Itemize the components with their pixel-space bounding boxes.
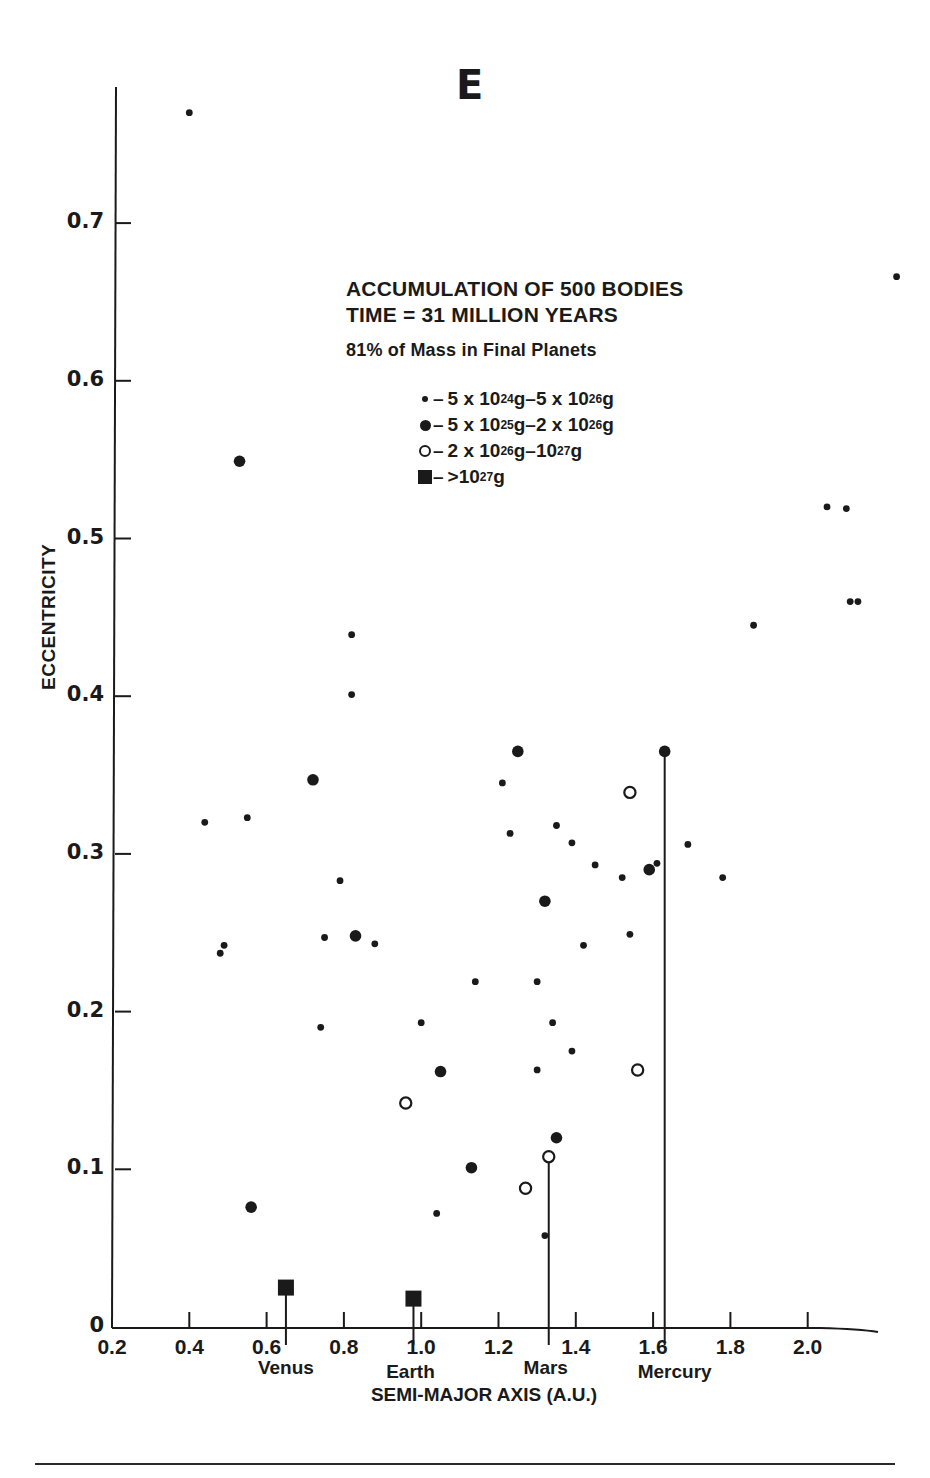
chart-title-line-1: ACCUMULATION OF 500 BODIES (346, 277, 683, 301)
data-point-open (520, 1183, 531, 1194)
data-point-medium (350, 930, 362, 942)
data-point-small (843, 505, 850, 512)
y-tick-label: 0.6 (54, 367, 104, 391)
small-dot-icon (422, 396, 428, 402)
data-point-small (317, 1024, 324, 1031)
planet-label-mercury: Mercury (638, 1361, 712, 1383)
x-axis-line (112, 1328, 878, 1332)
data-point-small (418, 1019, 425, 1026)
legend: – 5 x 1024g–5 x 1026g – 5 x 1025g–2 x 10… (418, 386, 614, 490)
data-point-small (592, 862, 599, 869)
scatter-figure: E ACCUMULATION OF 500 BODIES TIME = 31 M… (0, 0, 930, 1478)
plot-area (0, 0, 930, 1478)
data-point-small (499, 780, 506, 787)
data-point-medium (307, 774, 319, 786)
data-point-medium (643, 864, 655, 876)
data-point-medium (539, 895, 551, 907)
y-tick-label: 0.7 (54, 209, 104, 233)
legend-item-open: – 2 x 1026g–1027g (418, 438, 614, 464)
x-tick-label: 0.4 (175, 1335, 204, 1359)
data-point-small (433, 1210, 440, 1217)
data-point-square (278, 1280, 294, 1296)
data-point-small (553, 822, 560, 829)
filled-square-icon (418, 470, 432, 484)
data-point-medium (466, 1162, 478, 1174)
data-point-small (549, 1019, 556, 1026)
legend-item-medium: – 5 x 1025g–2 x 1026g (418, 412, 614, 438)
data-point-small (472, 978, 479, 985)
data-point-small (348, 691, 355, 698)
data-point-small (201, 819, 208, 826)
data-point-small (507, 830, 514, 837)
data-point-small (337, 877, 344, 884)
data-point-small (534, 1067, 541, 1074)
data-point-small (348, 631, 355, 638)
x-tick-label: 2.0 (793, 1335, 822, 1359)
data-point-square (405, 1291, 421, 1307)
data-point-small (654, 860, 661, 867)
data-point-medium (234, 455, 246, 467)
chart-title-line-2: TIME = 31 MILLION YEARS (346, 303, 618, 327)
y-tick-label: 0 (54, 1313, 104, 1337)
data-point-small (627, 931, 634, 938)
data-point-medium (551, 1132, 563, 1144)
y-axis-label: ECCENTRICITY (38, 544, 60, 690)
data-point-small (824, 504, 831, 511)
data-point-small (321, 934, 328, 941)
y-tick-label: 0.5 (54, 525, 104, 549)
x-tick-label: 1.6 (638, 1335, 667, 1359)
data-point-medium (435, 1066, 447, 1078)
data-point-open (624, 787, 635, 798)
y-axis-line (112, 87, 116, 1328)
x-tick-label: 1.0 (407, 1335, 436, 1359)
data-point-small (750, 622, 757, 629)
data-point-small (847, 598, 854, 605)
y-tick-label: 0.4 (54, 682, 104, 706)
x-tick-label: 0.2 (97, 1335, 126, 1359)
x-tick-label: 1.4 (561, 1335, 590, 1359)
data-point-small (580, 942, 587, 949)
data-point-small (534, 978, 541, 985)
medium-dot-icon (420, 420, 431, 431)
data-point-small (855, 598, 862, 605)
data-point-small (371, 940, 378, 947)
data-point-medium (245, 1201, 257, 1213)
data-point-medium (659, 746, 671, 758)
panel-letter: E (456, 62, 483, 108)
data-point-small (569, 839, 576, 846)
bottom-rule (35, 1463, 895, 1465)
data-point-small (684, 841, 691, 848)
data-point-small (569, 1048, 576, 1055)
data-point-small (186, 109, 193, 116)
legend-item-square: – >1027g (418, 464, 614, 490)
data-point-open (632, 1064, 643, 1075)
planet-label-mars: Mars (524, 1357, 568, 1379)
x-tick-label: 1.8 (716, 1335, 745, 1359)
planet-label-earth: Earth (386, 1361, 435, 1383)
x-tick-label: 0.6 (252, 1335, 281, 1359)
data-point-small (244, 814, 251, 821)
data-point-open (543, 1151, 554, 1162)
data-point-small (541, 1232, 548, 1239)
x-tick-label: 1.2 (484, 1335, 513, 1359)
legend-item-small: – 5 x 1024g–5 x 1026g (418, 386, 614, 412)
data-point-small (719, 874, 726, 881)
open-circle-icon (419, 445, 431, 457)
data-point-small (619, 874, 626, 881)
data-point-medium (512, 746, 524, 758)
data-point-small (221, 942, 228, 949)
data-point-open (400, 1097, 411, 1108)
x-tick-label: 0.8 (329, 1335, 358, 1359)
x-axis-label: SEMI-MAJOR AXIS (A.U.) (371, 1384, 597, 1406)
y-tick-label: 0.1 (54, 1155, 104, 1179)
y-tick-label: 0.2 (54, 998, 104, 1022)
data-point-small (217, 950, 224, 957)
data-point-small (893, 273, 900, 280)
planet-label-venus: Venus (258, 1357, 314, 1379)
chart-title-line-3: 81% of Mass in Final Planets (346, 340, 597, 361)
y-tick-label: 0.3 (54, 840, 104, 864)
